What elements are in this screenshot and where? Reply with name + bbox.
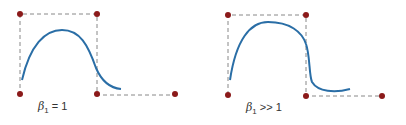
diagram-beta-equals-1	[17, 11, 178, 97]
beta-label-1: β1 = 1	[38, 100, 67, 115]
beta-label-2: β1 >> 1	[246, 101, 282, 116]
control-point	[172, 91, 178, 97]
control-point	[225, 12, 231, 18]
control-point	[379, 93, 385, 99]
relation: = 1	[49, 100, 68, 112]
control-polygon	[20, 14, 175, 95]
control-point	[94, 91, 100, 97]
control-point	[303, 93, 309, 99]
relation: >> 1	[257, 101, 282, 113]
control-point	[17, 11, 23, 17]
control-point	[225, 92, 231, 98]
control-point	[94, 11, 100, 17]
control-point	[303, 12, 309, 18]
curve	[22, 30, 121, 89]
curve	[230, 22, 350, 91]
control-point	[17, 91, 23, 97]
diagram-beta-much-greater-1	[225, 12, 385, 99]
